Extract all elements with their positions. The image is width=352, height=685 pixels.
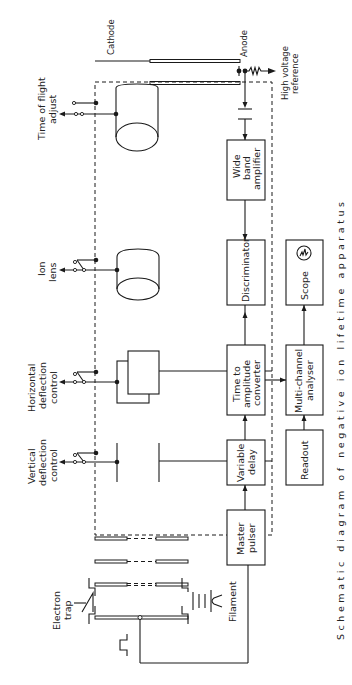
electron-trap-label-2: trap [62, 601, 73, 620]
trap-bracket [89, 578, 95, 596]
master-pulser-label-1: Master [235, 522, 246, 555]
tof-cylinder-top [116, 84, 158, 88]
arrow-left-icon [59, 460, 65, 465]
h-defl-switch-contact [73, 380, 76, 383]
arrow-up-icon [243, 312, 248, 318]
arrow-up-icon [243, 415, 248, 421]
v-deflection-label-3: control [48, 449, 59, 482]
arrow-up-icon [302, 415, 307, 421]
arrow-left-icon [59, 268, 65, 273]
v-defl-node [94, 451, 99, 456]
readout-label: Readout [299, 440, 310, 480]
ion-lens-node-cyl [115, 268, 120, 273]
tof-node [94, 101, 99, 106]
figure-caption: Schematic diagram of negative ion lifeti… [335, 202, 346, 640]
arrow-right-icon [280, 378, 286, 383]
ion-lens-node [94, 258, 99, 263]
anode-plate-top [150, 60, 240, 63]
arrow-right-icon [268, 68, 276, 74]
h-defl-switch-contact [73, 372, 76, 375]
hv-reference-label-1: High voltage [280, 46, 290, 100]
ion-lens-label-1: Ion [36, 261, 47, 276]
h-deflection-label-3: control [48, 371, 59, 404]
aperture-plate [95, 537, 127, 540]
ion-lens-end [117, 278, 159, 300]
cathode-label: Cathode [106, 19, 116, 55]
ion-lens-switch-contact [73, 268, 76, 271]
h-defl-switch-contact [82, 380, 85, 383]
h-deflection-plate-front [128, 351, 159, 394]
v-defl-switch-contact [82, 460, 85, 463]
arrow-left-icon [59, 380, 65, 385]
h-deflection-label-1: Horizontal [26, 363, 37, 412]
master-pulser-label-2: pulser [246, 524, 257, 553]
pulse-icon [120, 634, 127, 656]
mca-label-1: Multi-channel [293, 349, 304, 413]
v-deflection-label-2: deflection [37, 439, 48, 486]
v-defl-switch-contact [73, 460, 76, 463]
tof-adjust-label-1: Time of flight [36, 77, 47, 141]
ion-lens-top [117, 249, 159, 257]
tof-switch-contact [72, 101, 75, 104]
aperture-plate [156, 583, 188, 586]
trap-bracket [89, 606, 95, 624]
h-deflection-label-2: deflection [37, 362, 48, 409]
ion-lens-label-2: lens [47, 262, 58, 282]
wba-label-3: amplifier [251, 148, 262, 190]
v-defl-switch-contact [73, 453, 76, 456]
arrow-up-icon [302, 305, 307, 311]
arrow-left-icon [59, 112, 65, 117]
hv-reference-label-2: reference [290, 53, 300, 94]
tof-cylinder-end [116, 123, 158, 151]
anode-label: Anode [239, 30, 249, 57]
h-defl-node [94, 370, 99, 375]
aperture-plate [156, 560, 188, 563]
grid-node [138, 616, 142, 620]
ion-lens-switch-contact [82, 268, 85, 271]
tof-adjust-label-2: adjust [47, 95, 58, 124]
discriminator-label: Discriminator [240, 238, 251, 302]
tac-label-3: converter [251, 360, 262, 406]
arrow-down-icon [243, 102, 248, 108]
tof-switch-contact [74, 112, 77, 115]
aperture-plate [95, 583, 127, 586]
h-defl-node-plate [115, 380, 120, 385]
tof-switch-contact [80, 112, 83, 115]
gun-bracket [182, 606, 188, 624]
arrow-up-icon [243, 485, 248, 491]
filament-label: Filament [227, 581, 238, 622]
schematic-diagram: Cathode Anode High voltage reference Tim… [0, 0, 352, 685]
v-defl-node-plate [115, 460, 120, 465]
v-deflection-label-1: Vertical [26, 448, 37, 484]
variable-delay-label-2: delay [246, 449, 257, 475]
variable-delay-label-1: Variable [235, 443, 246, 482]
arrow-down-icon [243, 134, 248, 140]
resistor-icon [245, 68, 268, 75]
filament-icon [212, 595, 222, 607]
tof-node-cyl [114, 112, 119, 117]
scope-label: Scope [299, 271, 310, 300]
mca-label-2: analyser [304, 360, 315, 401]
aperture-plate [156, 537, 188, 540]
electron-trap-label-1: Electron [51, 591, 62, 630]
aperture-plate [95, 560, 127, 563]
ion-lens-switch-contact [73, 260, 76, 263]
